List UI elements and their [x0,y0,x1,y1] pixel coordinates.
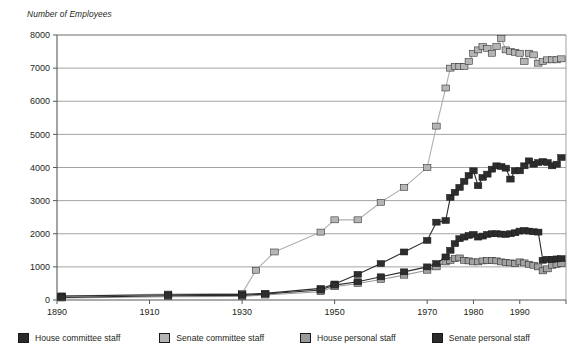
data-point-marker [400,184,408,190]
data-point-marker [558,155,566,161]
x-tick-label: 1890 [47,307,67,317]
legend-item-1[interactable]: Senate committee staff [159,333,264,343]
y-tick-label: 2000 [30,229,50,239]
legend-label: House committee staff [35,334,120,343]
data-point-marker [433,123,441,129]
chart-legend: House committee staffSenate committee st… [18,330,563,346]
legend-swatch-icon [159,333,170,343]
data-point-marker [497,35,505,41]
x-tick-label: 1950 [325,307,345,317]
legend-swatch-icon [18,333,29,343]
x-axis-tick-labels: 1890191019301950197019801990 [47,300,566,317]
data-point-marker [317,229,325,235]
legend-label: Senate personal staff [449,334,530,343]
y-tick-label: 7000 [30,63,50,73]
series-house-personal [58,255,565,301]
legend-label: Senate committee staff [176,334,264,343]
data-point-marker [460,178,468,184]
data-point-marker [493,44,501,50]
data-point-marker [433,219,441,225]
data-point-marker [465,59,473,65]
y-tick-label: 8000 [30,30,50,40]
data-point-marker [271,249,279,255]
legend-item-0[interactable]: House committee staff [18,333,120,343]
data-point-marker [400,249,408,255]
x-tick-label: 1930 [232,307,252,317]
data-point-marker [502,165,510,171]
data-point-marker [507,176,514,182]
data-point-marker [423,264,431,270]
data-point-marker [521,59,529,65]
data-point-marker [423,237,431,243]
data-point-marker [354,279,362,285]
data-point-marker [553,161,561,167]
legend-swatch-icon [300,333,311,343]
data-point-marker [354,271,362,277]
x-tick-label: 1980 [463,307,483,317]
data-point-marker [238,292,246,298]
data-point-marker [252,267,260,273]
y-tick-label: 3000 [30,196,50,206]
data-point-marker [317,287,325,293]
data-point-marker [470,168,478,174]
data-point-marker [530,52,538,58]
data-point-marker [456,184,464,190]
legend-item-3[interactable]: Senate personal staff [432,333,530,343]
y-tick-label: 5000 [30,130,50,140]
data-point-marker [447,247,455,253]
data-point-marker [516,50,524,56]
data-point-marker [442,254,450,260]
chart-plot: 010002000300040005000600070008000 189019… [0,0,577,357]
data-point-marker [377,199,385,205]
data-point-marker [442,85,450,91]
y-tick-label: 1000 [30,262,50,272]
data-point-marker [331,282,339,288]
x-tick-label: 1990 [510,307,530,317]
data-point-marker [400,269,408,275]
data-point-marker [488,50,496,56]
data-series-group [58,35,565,301]
x-tick-label: 1910 [140,307,160,317]
data-point-marker [164,293,172,299]
data-point-marker [558,256,566,262]
data-point-marker [377,274,385,280]
data-point-marker [354,217,362,223]
y-tick-label: 0 [45,295,50,305]
data-point-marker [474,183,482,189]
data-point-marker [261,291,269,297]
y-axis-tick-labels: 010002000300040005000600070008000 [30,30,50,305]
data-point-marker [433,261,441,267]
data-point-marker [534,229,542,235]
data-point-marker [423,165,431,171]
data-point-marker [442,218,450,224]
legend-label: House personal staff [317,334,396,343]
y-tick-label: 6000 [30,96,50,106]
legend-swatch-icon [432,333,443,343]
chart-container: Number of Employees 01000200030004000500… [0,0,577,357]
data-point-marker [377,261,385,267]
x-tick-label: 1970 [417,307,437,317]
series-house-committee [58,155,565,299]
data-point-marker [331,217,339,223]
data-point-marker [58,294,66,300]
y-tick-label: 4000 [30,163,50,173]
legend-item-2[interactable]: House personal staff [300,333,396,343]
data-point-marker [558,56,566,62]
